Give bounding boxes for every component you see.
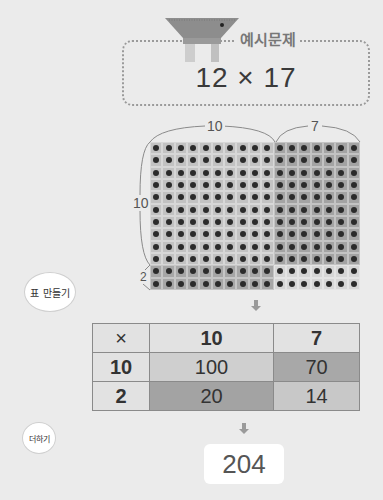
dot [190,170,196,176]
dot-cell [199,278,211,290]
dot-cell [150,241,162,253]
dot [153,207,159,213]
dot [178,145,184,151]
dot-cell [335,241,347,253]
dot-cell [261,253,273,265]
dot-cell [187,216,199,228]
dot-cell [298,167,310,179]
dot [326,182,332,188]
dot-cell [199,142,211,154]
dot [240,281,246,287]
dot-cell [162,167,174,179]
dot-cell [335,253,347,265]
dot-cell [175,167,187,179]
dot-cell [199,241,211,253]
dot-cell [249,142,261,154]
dot-cell [236,216,248,228]
dot [190,219,196,225]
dot [338,268,344,274]
dot [252,244,258,250]
dot-cell [212,167,224,179]
dot-cell [348,228,360,240]
dot-cell [286,167,298,179]
dot [203,281,209,287]
dot [301,231,307,237]
dot-cell [274,191,286,203]
dot-cell [323,278,335,290]
dot-cell [236,204,248,216]
dot [153,256,159,262]
dot [338,170,344,176]
dot-cell [348,216,360,228]
dot [264,268,270,274]
dot [240,194,246,200]
dot-cell [348,204,360,216]
dot-cell [175,142,187,154]
dot-cell [311,278,323,290]
dot [190,268,196,274]
dot-cell [199,191,211,203]
dot [240,268,246,274]
dot [277,170,283,176]
dot-cell [298,204,310,216]
dot [326,219,332,225]
dot-cell [199,265,211,277]
dot-cell [199,167,211,179]
dot-cell [236,191,248,203]
dot [166,256,172,262]
dot-cell [150,216,162,228]
dot-cell [162,191,174,203]
dot-cell [348,253,360,265]
dot-cell [249,253,261,265]
dot [351,170,357,176]
dot-cell [175,253,187,265]
dot [277,268,283,274]
dot [277,207,283,213]
dot [277,194,283,200]
dot [351,157,357,163]
dot-cell [348,278,360,290]
dot [215,170,221,176]
dot [289,244,295,250]
dot-cell [298,228,310,240]
dot-cell [212,253,224,265]
dot [277,145,283,151]
dot-cell [274,278,286,290]
dot [240,231,246,237]
dot-cell [162,179,174,191]
dot-cell [323,241,335,253]
dot [326,157,332,163]
dot [215,157,221,163]
dot [227,145,233,151]
dot-cell [175,154,187,166]
dot [277,256,283,262]
dot [153,194,159,200]
dot [252,219,258,225]
dot [203,170,209,176]
dot [277,219,283,225]
dot [277,244,283,250]
dot [314,157,320,163]
dot-cell [150,179,162,191]
dot [264,244,270,250]
dot-cell [224,265,236,277]
dot [338,182,344,188]
dot-cell [212,216,224,228]
dot [190,281,196,287]
dot [301,244,307,250]
dot [166,244,172,250]
dot [166,157,172,163]
dot [190,244,196,250]
dot [227,170,233,176]
dot [153,231,159,237]
dot-cell [212,142,224,154]
step-bubble-add: 더하기 [22,422,56,454]
dot-cell [212,154,224,166]
dot [252,256,258,262]
dot [215,268,221,274]
table-corner: × [93,324,150,353]
dot [351,219,357,225]
dot [338,231,344,237]
dot-cell [187,142,199,154]
dot-cell [311,253,323,265]
